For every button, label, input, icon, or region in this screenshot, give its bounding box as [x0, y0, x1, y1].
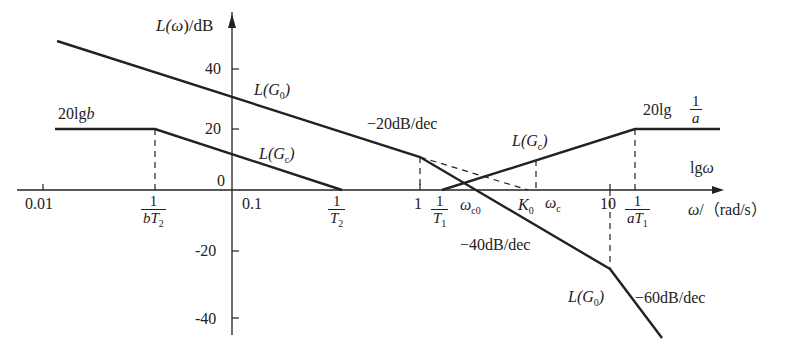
frac-num: 1 [331, 194, 343, 209]
annotation-20lg-1-over-a: 20lg [643, 102, 671, 118]
lg-text: lg [690, 159, 702, 176]
omega-sub: c0 [471, 205, 480, 216]
paren: ) [542, 132, 547, 149]
paren: ) [599, 288, 604, 305]
frac-sub: 2 [159, 218, 164, 229]
x-axis-arrow-icon [712, 186, 724, 194]
curve-L-Gc-lead [442, 129, 720, 190]
x-axis-lg-omega-label: lgω [690, 160, 714, 176]
lg-text: 20lg [643, 101, 671, 118]
K-symbol: K [518, 196, 529, 213]
y-label-omega: ω [171, 16, 183, 35]
K-sub: 0 [529, 205, 534, 216]
annotation-20lgb: 20lgb [58, 106, 94, 122]
omega-symbol: ω [545, 194, 556, 211]
frac-num: 1 [632, 194, 644, 209]
omega-text: ω [688, 201, 699, 218]
y-tick-neg20: -20 [195, 243, 216, 259]
y-tick-0: 0 [217, 173, 225, 189]
frac-den: T2 [328, 209, 345, 229]
unit-text: /（rad/s） [699, 201, 767, 218]
frac-den-text: bT [143, 210, 159, 226]
G-text: G [268, 81, 280, 98]
frac-den-text: aT [627, 210, 643, 226]
L-text: L( [568, 288, 582, 305]
y-label-L: L( [156, 16, 171, 35]
frac-sub: 1 [441, 218, 446, 229]
frac-num: 1 [690, 94, 702, 109]
annotation-slope-minus40: −40dB/dec [460, 237, 530, 253]
lg-text: 20lg [58, 105, 86, 122]
G-text: G [526, 132, 538, 149]
paren: ) [289, 145, 294, 162]
frac-den: aT1 [625, 209, 650, 229]
x-label-omega-c: ωc [545, 195, 561, 214]
x-axis-unit-label: ω/（rad/s） [688, 202, 767, 218]
x-tick-1-over-T2: 1T2 [328, 194, 345, 229]
frac-sub: 1 [643, 218, 648, 229]
x-tick-1-over-aT1: 1aT1 [625, 194, 650, 229]
y-label-unit: )/dB [183, 16, 213, 35]
y-axis-label: L(ω)/dB [156, 17, 213, 34]
annotation-L-Gc-left: L(Gc) [259, 146, 295, 165]
y-axis-arrow-icon [228, 14, 236, 28]
annotation-L-G0-top: L(G0) [254, 82, 290, 101]
G-text: G [273, 145, 285, 162]
omega-symbol: ω [460, 196, 471, 213]
frac-sub: 2 [338, 218, 343, 229]
frac-den: T1 [431, 209, 448, 229]
y-tick-neg40: -40 [195, 311, 216, 327]
curve-L-Gc-lag [55, 129, 342, 190]
frac-num: 1 [148, 194, 160, 209]
G-text: G [582, 288, 594, 305]
x-label-K0: K0 [518, 197, 534, 216]
y-tick-40: 40 [205, 61, 221, 77]
x-label-omega-c0: ωc0 [460, 197, 481, 216]
L-text: L( [259, 145, 273, 162]
x-tick-1: 1 [414, 196, 422, 212]
annotation-L-Gc-right: L(Gc) [512, 133, 548, 152]
y-tick-20: 20 [205, 121, 221, 137]
x-tick-1-over-bT2: 1bT2 [141, 194, 166, 229]
frac-num: 1 [434, 194, 446, 209]
frac-den: bT2 [141, 209, 166, 229]
x-tick-0.1: 0.1 [242, 196, 262, 212]
x-tick-1-over-T1: 1T1 [431, 194, 448, 229]
x-tick-10: 10 [600, 196, 616, 212]
x-tick-0.01: 0.01 [25, 196, 53, 212]
omega-sub: c [556, 203, 560, 214]
y-ticks [232, 69, 239, 318]
annotation-L-G0-bottom: L(G0) [568, 289, 604, 308]
b-var: b [86, 105, 94, 122]
annotation-1-over-a-frac: 1a [690, 94, 702, 126]
L-text: L( [254, 81, 268, 98]
paren: ) [285, 81, 290, 98]
annotation-slope-minus20: −20dB/dec [367, 116, 437, 132]
annotation-slope-minus60: −60dB/dec [635, 290, 705, 306]
frac-den: a [690, 109, 702, 126]
L-text: L( [512, 132, 526, 149]
omega-text: ω [702, 159, 713, 176]
